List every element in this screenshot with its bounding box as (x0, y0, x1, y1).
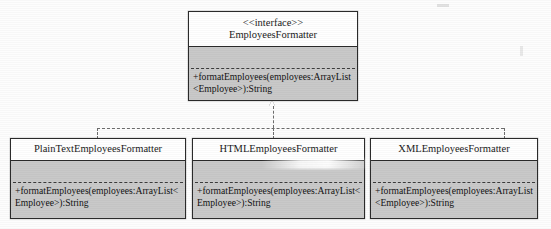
class-box-employees-formatter[interactable]: <<interface>> EmployeesFormatter +format… (188, 11, 358, 101)
class-operations-compartment: +formatEmployees(employees:ArrayList<Emp… (11, 183, 185, 211)
class-attributes-compartment (11, 161, 185, 183)
operation-signature: +formatEmployees(employees:ArrayList<Emp… (375, 185, 533, 208)
class-name: EmployeesFormatter (229, 29, 317, 41)
class-operations-compartment: +formatEmployees(employees:ArrayList<Emp… (371, 183, 537, 211)
scan-artifact-speck (437, 4, 449, 7)
operation-signature: +formatEmployees(employees:ArrayList<Emp… (15, 185, 178, 208)
class-name: PlainTextEmployeesFormatter (34, 143, 162, 155)
class-name: XMLEmployeesFormatter (398, 143, 509, 155)
class-stereotype: <<interface>> (243, 17, 303, 29)
scan-artifact-speck (520, 46, 523, 56)
class-name: HTMLEmployeesFormatter (220, 143, 338, 155)
class-operations-compartment: +formatEmployees(employees:ArrayList<Emp… (193, 183, 364, 211)
realization-drop-plaintext (97, 128, 98, 139)
class-title-html-employees-formatter: HTMLEmployeesFormatter (193, 139, 364, 161)
realization-bus (97, 128, 504, 129)
class-attributes-compartment (193, 161, 364, 183)
class-title-xml-employees-formatter: XMLEmployeesFormatter (371, 139, 537, 161)
realization-drop-xml (504, 128, 505, 139)
class-box-plaintext-employees-formatter[interactable]: PlainTextEmployeesFormatter +formatEmplo… (10, 138, 186, 219)
operation-signature: +formatEmployees(employees:ArrayList<Emp… (197, 185, 360, 208)
uml-class-diagram-canvas: <<interface>> EmployeesFormatter +format… (0, 0, 551, 229)
class-title-plaintext-employees-formatter: PlainTextEmployeesFormatter (11, 139, 185, 161)
realization-drop-html (273, 128, 274, 139)
operation-signature: +formatEmployees(employees:ArrayList<Emp… (193, 71, 351, 94)
realization-stem-interface (273, 106, 274, 128)
class-title-employees-formatter: <<interface>> EmployeesFormatter (189, 12, 357, 47)
class-box-html-employees-formatter[interactable]: HTMLEmployeesFormatter +formatEmployees(… (192, 138, 365, 219)
class-box-xml-employees-formatter[interactable]: XMLEmployeesFormatter +formatEmployees(e… (370, 138, 538, 219)
class-operations-compartment: +formatEmployees(employees:ArrayList<Emp… (189, 69, 357, 97)
class-attributes-compartment (371, 161, 537, 183)
class-attributes-compartment (189, 47, 357, 69)
